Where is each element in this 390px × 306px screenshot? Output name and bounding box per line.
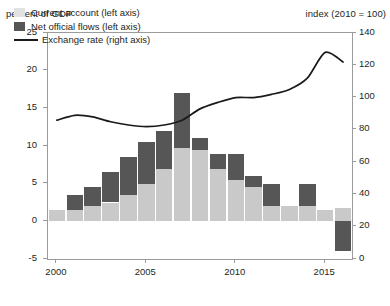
ytick-label-right-40: 40 <box>359 187 390 198</box>
ytick-label-right-80: 80 <box>359 122 390 133</box>
ytick-mark-right-60 <box>352 161 356 162</box>
ytick-mark-right-40 <box>352 193 356 194</box>
legend-item-1: Current account (left axis) <box>14 6 150 20</box>
swatch-current-account <box>14 8 25 17</box>
xtick-label-2000: 2000 <box>36 266 76 277</box>
ytick-mark-left-15 <box>43 107 47 108</box>
ytick-mark-left-5 <box>43 182 47 183</box>
legend-item-2: Net official flows (left axis) <box>14 20 150 34</box>
legend-label-3: Exchange rate (right axis) <box>42 33 150 47</box>
swatch-net-official-flows <box>14 22 25 31</box>
xtick-mark-2005 <box>145 259 146 263</box>
ytick-label-left-15: 15 <box>7 101 37 112</box>
xtick-mark-2015 <box>324 259 325 263</box>
ytick-label-right-100: 100 <box>359 90 390 101</box>
ytick-mark-left-20 <box>43 69 47 70</box>
legend-label-1: Current account (left axis) <box>31 6 140 20</box>
xtick-label-2015: 2015 <box>304 266 344 277</box>
ytick-label-right-60: 60 <box>359 155 390 166</box>
ytick-mark-right-120 <box>352 64 356 65</box>
xtick-mark-2010 <box>234 259 235 263</box>
legend-item-3: Exchange rate (right axis) <box>14 33 150 47</box>
exchange-rate-path <box>57 52 343 127</box>
ytick-mark-left-0 <box>43 220 47 221</box>
ytick-label-right-120: 120 <box>359 58 390 69</box>
ytick-label-left-20: 20 <box>7 63 37 74</box>
chart-legend: Current account (left axis)Net official … <box>14 6 150 47</box>
ytick-mark-left-10 <box>43 145 47 146</box>
exchange-rate-line <box>48 33 352 259</box>
ytick-label-left-0: 0 <box>7 214 37 225</box>
ytick-mark-right-20 <box>352 225 356 226</box>
ytick-label-right-0: 0 <box>359 252 390 263</box>
ytick-label-left-10: 10 <box>7 139 37 150</box>
xtick-label-2005: 2005 <box>125 266 165 277</box>
ytick-mark-right-140 <box>352 32 356 33</box>
ytick-mark-left--5 <box>43 258 47 259</box>
ytick-mark-right-0 <box>352 258 356 259</box>
plot-inner <box>48 33 352 259</box>
legend-label-2: Net official flows (left axis) <box>31 20 141 34</box>
ytick-mark-right-80 <box>352 128 356 129</box>
ytick-mark-right-100 <box>352 96 356 97</box>
ytick-label-right-140: 140 <box>359 26 390 37</box>
swatch-exchange-rate-line <box>14 35 38 44</box>
plot-area <box>47 32 353 260</box>
xtick-mark-2000 <box>55 259 56 263</box>
chart-figure: percent of GDP index (2010 = 100) -50510… <box>0 0 390 306</box>
ytick-label-right-20: 20 <box>359 219 390 230</box>
ytick-label-left--5: -5 <box>7 252 37 263</box>
ytick-label-left-5: 5 <box>7 176 37 187</box>
right-axis-title: index (2010 = 100) <box>306 8 386 19</box>
xtick-label-2010: 2010 <box>215 266 255 277</box>
